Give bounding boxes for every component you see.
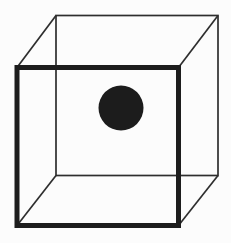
cube-illustration xyxy=(0,0,231,243)
cube-connecting-edge-2 xyxy=(17,176,56,226)
cube-front-face xyxy=(17,68,179,226)
front-face-dot xyxy=(99,86,144,131)
cube-connecting-edge-1 xyxy=(179,16,219,68)
cube-connecting-edge-0 xyxy=(17,16,56,68)
cube-connecting-edge-3 xyxy=(179,176,219,226)
cube-svg xyxy=(0,0,231,243)
